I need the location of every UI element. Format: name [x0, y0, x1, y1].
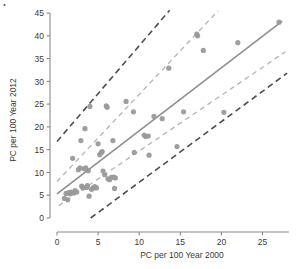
x-tick-label: 20: [217, 237, 227, 247]
data-point: [151, 114, 156, 119]
data-point: [100, 149, 105, 154]
data-point: [86, 168, 91, 173]
data-point: [201, 48, 206, 53]
data-point: [105, 105, 110, 110]
scatter-plot-figure: 051015202530354045 0510152025 PC per 100…: [0, 0, 308, 269]
y-tick-label: 5: [39, 190, 44, 200]
y-axis: 051015202530354045: [35, 8, 50, 223]
data-point: [276, 20, 281, 25]
x-axis-title: PC per 100 Year 2000: [140, 250, 224, 260]
y-axis-title: PC per 100 Year 2012: [8, 78, 18, 162]
data-point: [146, 153, 151, 158]
data-point: [96, 141, 101, 146]
data-point: [160, 116, 165, 121]
x-tick-label: 10: [134, 237, 144, 247]
data-point: [131, 109, 136, 114]
data-point: [132, 150, 137, 155]
data-point: [86, 194, 91, 199]
y-tick-label: 40: [35, 31, 45, 41]
y-tick-label: 35: [35, 54, 45, 64]
data-point: [174, 144, 179, 149]
scan-artifact-speck: [3, 4, 5, 6]
y-tick-label: 30: [35, 77, 45, 87]
y-tick-label: 45: [35, 8, 45, 18]
y-tick-label: 20: [35, 122, 45, 132]
confidence-band-upper: [57, 11, 218, 182]
x-tick-label: 5: [96, 237, 101, 247]
y-tick-label: 15: [35, 145, 45, 155]
x-tick-label: 0: [55, 237, 60, 247]
data-point: [112, 186, 117, 191]
data-point: [195, 33, 200, 38]
data-point: [146, 133, 151, 138]
y-tick-label: 10: [35, 168, 45, 178]
data-point: [78, 138, 83, 143]
data-point: [94, 185, 99, 190]
data-point: [123, 99, 128, 104]
data-point: [82, 126, 87, 131]
y-tick-label: 25: [35, 99, 45, 109]
data-point: [181, 109, 186, 114]
data-point: [235, 40, 240, 45]
x-tick-label: 15: [176, 237, 186, 247]
data-point: [85, 183, 90, 188]
data-point: [87, 104, 92, 109]
confidence-band-lower: [59, 52, 286, 206]
data-point: [113, 175, 118, 180]
x-axis: 0510152025: [55, 232, 289, 247]
x-tick-label: 25: [258, 237, 268, 247]
data-point: [221, 110, 226, 115]
data-point: [166, 66, 171, 71]
data-point: [74, 189, 79, 194]
data-point: [70, 156, 75, 161]
data-point: [110, 138, 115, 143]
data-point: [102, 172, 107, 177]
y-tick-label: 0: [39, 213, 44, 223]
data-point: [65, 197, 70, 202]
